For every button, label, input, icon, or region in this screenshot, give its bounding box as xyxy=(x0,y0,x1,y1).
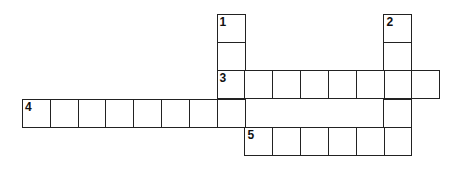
crossword-cell[interactable] xyxy=(189,99,218,128)
crossword-cell[interactable] xyxy=(244,70,273,99)
crossword-cell[interactable] xyxy=(328,70,357,99)
crossword-cell[interactable] xyxy=(383,70,412,99)
crossword-cell[interactable] xyxy=(161,99,190,128)
crossword-cell[interactable] xyxy=(300,70,329,99)
crossword-cell[interactable]: 3 xyxy=(217,70,246,99)
crossword-cell[interactable] xyxy=(383,99,412,128)
crossword-cell[interactable] xyxy=(300,127,329,156)
crossword-cell[interactable] xyxy=(217,42,246,71)
crossword-cell[interactable] xyxy=(133,99,162,128)
crossword-grid: 13245 xyxy=(0,0,456,170)
clue-number: 1 xyxy=(220,15,227,29)
crossword-cell[interactable] xyxy=(105,99,134,128)
crossword-cell[interactable]: 5 xyxy=(244,127,273,156)
crossword-cell[interactable] xyxy=(411,70,440,99)
crossword-cell[interactable]: 1 xyxy=(217,14,246,43)
clue-number: 4 xyxy=(25,100,32,114)
crossword-cell[interactable] xyxy=(78,99,107,128)
crossword-cell[interactable] xyxy=(356,70,385,99)
crossword-cell[interactable] xyxy=(217,99,246,128)
crossword-cell[interactable]: 4 xyxy=(22,99,51,128)
clue-number: 3 xyxy=(220,71,227,85)
clue-number: 2 xyxy=(386,15,393,29)
crossword-cell[interactable] xyxy=(328,127,357,156)
crossword-cell[interactable] xyxy=(50,99,79,128)
crossword-cell[interactable] xyxy=(272,70,301,99)
crossword-cell[interactable] xyxy=(356,127,385,156)
clue-number: 5 xyxy=(247,128,254,142)
crossword-cell[interactable] xyxy=(383,42,412,71)
crossword-cell[interactable] xyxy=(383,127,412,156)
crossword-cell[interactable]: 2 xyxy=(383,14,412,43)
crossword-cell[interactable] xyxy=(272,127,301,156)
